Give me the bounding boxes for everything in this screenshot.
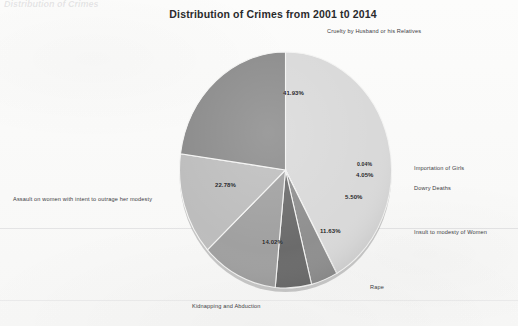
chart-title: Distribution of Crimes from 2001 t0 2014	[0, 8, 518, 20]
category-label-insult: Insult to modesty of Women	[414, 229, 487, 235]
slice-value-dowry: 4.05%	[356, 172, 374, 178]
pie-chart	[176, 41, 395, 299]
category-label-dowry: Dowry Deaths	[414, 185, 451, 191]
slice-value-kidnapping: 14.02%	[262, 239, 283, 245]
page-ruled-line	[0, 300, 518, 301]
category-label-importation: Importation of Girls	[414, 165, 464, 171]
slice-value-insult: 5.50%	[345, 194, 363, 200]
category-label-cruelty: Cruelty by Husband or his Relatives	[327, 28, 421, 34]
pie-chart-svg	[176, 41, 395, 299]
category-label-kidnapping: Kidnapping and Abduction	[192, 303, 261, 309]
slice-value-importation: 0.04%	[357, 161, 372, 167]
pie-shading-overlay	[180, 52, 392, 288]
category-label-rape: Rape	[370, 284, 384, 290]
slice-value-assault: 22.78%	[215, 182, 236, 188]
chart-title-text: Distribution of Crimes from 2001 t0 2014	[169, 8, 376, 20]
category-label-assault: Assault on women with intent to outrage …	[13, 196, 152, 202]
slice-value-rape: 11.63%	[320, 228, 341, 234]
slice-value-cruelty: 41.93%	[283, 90, 304, 96]
